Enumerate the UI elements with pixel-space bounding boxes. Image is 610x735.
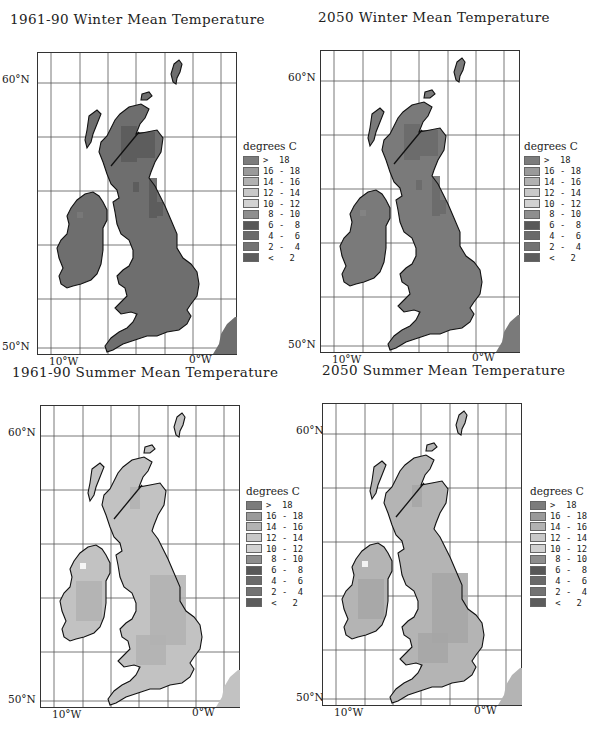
temperature-legend: degrees C > 1816 - 1814 - 1612 - 1410 - … xyxy=(524,140,581,263)
legend-title: degrees C xyxy=(243,140,300,152)
legend-swatch xyxy=(524,242,540,251)
legend-label: 4 - 6 xyxy=(550,576,587,586)
legend-item: < 2 xyxy=(530,597,587,608)
legend-item: 14 - 16 xyxy=(530,522,587,533)
legend-title: degrees C xyxy=(246,485,303,497)
legend-label: 6 - 8 xyxy=(263,220,300,230)
legend-label: < 2 xyxy=(544,253,576,263)
legend-label: 12 - 14 xyxy=(550,533,587,543)
legend-label: < 2 xyxy=(550,598,582,608)
legend-label: > 18 xyxy=(266,500,292,510)
legend-item: 10 - 12 xyxy=(246,543,303,554)
legend-swatch xyxy=(246,512,262,521)
legend-label: 14 - 16 xyxy=(550,522,587,532)
legend-swatch xyxy=(246,576,262,585)
legend-label: 10 - 12 xyxy=(266,544,303,554)
legend-item: 16 - 18 xyxy=(246,511,303,522)
legend-swatch xyxy=(524,177,540,186)
legend-swatch xyxy=(243,167,259,176)
longitude-label-10w: 10°W xyxy=(52,708,81,720)
legend-label: 8 - 10 xyxy=(266,554,303,564)
legend-swatch xyxy=(243,253,259,262)
legend-item: > 18 xyxy=(524,155,581,166)
legend-label: 12 - 14 xyxy=(544,188,581,198)
legend-label: 2 - 4 xyxy=(266,587,303,597)
legend-item: 8 - 10 xyxy=(524,209,581,220)
legend-swatch xyxy=(524,231,540,240)
legend-title: degrees C xyxy=(524,140,581,152)
temperature-legend: degrees C > 1816 - 1814 - 1612 - 1410 - … xyxy=(246,485,303,608)
latitude-label-50n: 50°N xyxy=(288,338,316,350)
legend-item: 8 - 10 xyxy=(530,554,587,565)
legend-item: > 18 xyxy=(243,155,300,166)
legend-item: 8 - 10 xyxy=(246,554,303,565)
legend-swatch xyxy=(243,221,259,230)
legend-swatch xyxy=(243,231,259,240)
temperature-map xyxy=(322,403,522,706)
legend-swatch xyxy=(524,156,540,165)
legend-label: < 2 xyxy=(266,598,298,608)
legend-swatch xyxy=(524,210,540,219)
legend-item: 16 - 18 xyxy=(524,166,581,177)
legend-swatch xyxy=(243,188,259,197)
temperature-map xyxy=(40,405,240,708)
legend-swatch xyxy=(246,533,262,542)
latitude-label-60n: 60°N xyxy=(8,426,36,438)
legend-label: 14 - 16 xyxy=(263,177,300,187)
legend-item: 4 - 6 xyxy=(243,231,300,242)
legend-label: 16 - 18 xyxy=(544,166,581,176)
legend-swatch xyxy=(246,566,262,575)
legend-swatch xyxy=(243,210,259,219)
legend-title: degrees C xyxy=(530,485,587,497)
legend-item: > 18 xyxy=(530,500,587,511)
latitude-label-50n: 50°N xyxy=(8,693,36,705)
map-title: 2050 Summer Mean Temperature xyxy=(322,362,565,378)
legend-swatch xyxy=(243,242,259,251)
legend-swatch xyxy=(243,177,259,186)
legend-swatch xyxy=(246,544,262,553)
legend-item: < 2 xyxy=(524,252,581,263)
legend-label: 2 - 4 xyxy=(263,242,300,252)
legend-label: > 18 xyxy=(263,155,289,165)
latitude-label-60n: 60°N xyxy=(2,73,30,85)
legend-item: 6 - 8 xyxy=(524,220,581,231)
legend-swatch xyxy=(530,576,546,585)
legend-label: 4 - 6 xyxy=(263,231,300,241)
legend-label: 6 - 8 xyxy=(266,565,303,575)
legend-swatch xyxy=(530,555,546,564)
legend-label: 8 - 10 xyxy=(550,554,587,564)
legend-label: < 2 xyxy=(263,253,295,263)
legend-swatch xyxy=(246,598,262,607)
legend-label: 12 - 14 xyxy=(263,188,300,198)
legend-swatch xyxy=(246,587,262,596)
legend-item: 12 - 14 xyxy=(246,532,303,543)
legend-label: 14 - 16 xyxy=(266,522,303,532)
legend-swatch xyxy=(246,501,262,510)
legend-swatch xyxy=(524,253,540,262)
legend-label: 4 - 6 xyxy=(266,576,303,586)
legend-item: < 2 xyxy=(243,252,300,263)
legend-label: > 18 xyxy=(550,500,576,510)
legend-label: 2 - 4 xyxy=(550,587,587,597)
temperature-map xyxy=(320,50,520,353)
legend-item: 12 - 14 xyxy=(524,187,581,198)
legend-label: 14 - 16 xyxy=(544,177,581,187)
legend-label: 10 - 12 xyxy=(550,544,587,554)
legend-item: 16 - 18 xyxy=(243,166,300,177)
legend-swatch xyxy=(524,188,540,197)
legend-swatch xyxy=(530,512,546,521)
legend-label: 6 - 8 xyxy=(550,565,587,575)
latitude-label-60n: 60°N xyxy=(288,71,316,83)
legend-swatch xyxy=(530,587,546,596)
legend-item: 10 - 12 xyxy=(524,198,581,209)
legend-label: 8 - 10 xyxy=(544,209,581,219)
legend-item: 6 - 8 xyxy=(243,220,300,231)
legend-swatch xyxy=(530,544,546,553)
legend-label: 16 - 18 xyxy=(266,511,303,521)
legend-label: 4 - 6 xyxy=(544,231,581,241)
legend-item: 2 - 4 xyxy=(530,586,587,597)
latitude-label-60n: 60°N xyxy=(296,424,324,436)
map-title: 1961-90 Winter Mean Temperature xyxy=(10,11,265,27)
legend-label: > 18 xyxy=(544,155,570,165)
map-title: 2050 Winter Mean Temperature xyxy=(318,9,550,25)
